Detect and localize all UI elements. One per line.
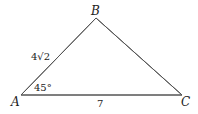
angle-label-a: 45° — [34, 82, 52, 93]
vertex-label-c: C — [181, 95, 190, 109]
vertex-label-b: B — [90, 4, 100, 18]
side-bc — [96, 18, 182, 95]
triangle-diagram: B A C 4√2 45° 7 — [0, 0, 198, 114]
side-label-ab: 4√2 — [31, 51, 50, 62]
vertex-label-a: A — [10, 95, 20, 109]
side-label-ac: 7 — [97, 98, 103, 109]
